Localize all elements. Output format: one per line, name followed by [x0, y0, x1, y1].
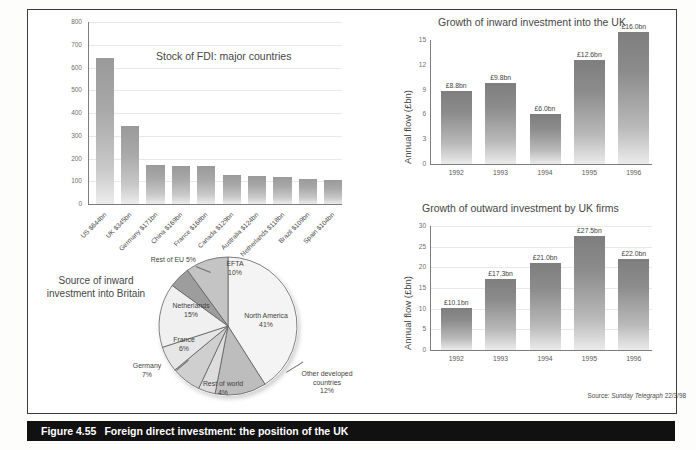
gridline [430, 226, 652, 227]
bar [121, 126, 139, 205]
bar [574, 60, 605, 164]
pie-slice-value: 41% [259, 321, 273, 328]
pie-slice-name: Other developedcountries [302, 370, 353, 386]
pie-slice-value: 15% [184, 311, 198, 318]
y-axis-tick: 200 [54, 155, 82, 162]
x-axis [430, 350, 652, 351]
pie-slice-name: Rest of EU [151, 256, 184, 263]
y-axis-tick: 9 [406, 86, 426, 93]
y-axis-label-inward: Annual flow (£bn) [402, 90, 413, 164]
pie-slice-label: Rest of world4% [188, 380, 258, 397]
bar [197, 166, 215, 204]
x-axis-category-label: 1996 [614, 169, 654, 176]
bar-value-label: £17.3bn [477, 270, 525, 277]
y-axis [430, 226, 431, 350]
y-axis-tick: 700 [54, 41, 82, 48]
y-axis-tick: 800 [54, 18, 82, 25]
plot-area-outward: 051015202530£10.1bn1992£17.3bn1993£21.0b… [430, 226, 652, 350]
bar-value-label: £8.8bn [432, 82, 480, 89]
pie-slice-label: Rest of EU 5% [132, 256, 196, 265]
pie-slice-value: 10% [228, 269, 242, 276]
y-axis-tick: 20 [406, 263, 426, 270]
bar [248, 176, 266, 204]
y-axis-tick: 15 [406, 36, 426, 43]
bar [324, 180, 342, 204]
x-axis-category-label: 1993 [481, 355, 521, 362]
bar-value-label: £16.0bn [610, 23, 658, 30]
figure-caption-text: Foreign direct investment: the position … [96, 425, 348, 437]
x-axis-category-label: 1992 [436, 169, 476, 176]
y-axis-tick: 100 [54, 177, 82, 184]
gridline [430, 247, 652, 248]
bar [618, 32, 649, 164]
y-axis-tick: 3 [406, 135, 426, 142]
pie-slice-value: 4% [218, 389, 228, 396]
bar [273, 177, 291, 204]
y-axis-tick: 30 [406, 222, 426, 229]
bar-value-label: £9.8bn [477, 74, 525, 81]
bar-value-label: £21.0bn [521, 254, 569, 261]
gridline [88, 113, 342, 114]
bar [485, 279, 516, 351]
chart-outward-investment: Growth of outward investment by UK firms… [390, 200, 672, 380]
pie-slice-value: 6% [179, 345, 189, 352]
pie-slice-name: EFTA [226, 260, 243, 267]
pie-slice-label: North America41% [235, 312, 297, 329]
bar-value-label: £10.1bn [432, 299, 480, 306]
chart-title-inward: Growth of inward investment into the UK [438, 16, 626, 28]
pie-slice-value: 12% [320, 387, 334, 394]
chart-inward-investment: Growth of inward investment into the UK … [390, 14, 672, 194]
bar [299, 179, 317, 204]
y-axis-tick: 15 [406, 284, 426, 291]
pie-slice-name: France [173, 336, 194, 343]
pie-slice-value: 5% [186, 256, 196, 263]
pie-slice-label: Germany7% [118, 362, 176, 379]
y-axis-tick: 5 [406, 325, 426, 332]
figure-page: Stock of FDI: major countries 0100200300… [0, 0, 696, 450]
bar [530, 114, 561, 164]
y-axis-tick: 25 [406, 243, 426, 250]
x-axis-category-label: 1995 [569, 355, 609, 362]
y-axis-tick: 500 [54, 86, 82, 93]
y-axis-tick: 600 [54, 64, 82, 71]
x-axis-category-label: 1993 [481, 169, 521, 176]
bar [530, 263, 561, 350]
pie-slice-label: Netherlands15% [161, 302, 221, 319]
figure-caption-bar: Figure 4.55 Foreign direct investment: t… [27, 421, 675, 441]
gridline [88, 22, 342, 23]
gridline [88, 90, 342, 91]
pie-title-text: Source of inward investment into Britain [47, 275, 145, 299]
source-note: Source: Sunday Telegraph 22/3/98 [587, 392, 686, 399]
source-date: 22/3/98 [663, 392, 686, 399]
y-axis [88, 22, 89, 204]
bar [618, 259, 649, 350]
bar [96, 58, 114, 205]
y-axis-tick: 10 [406, 305, 426, 312]
bar-value-label: £22.0bn [610, 250, 658, 257]
x-axis-category-label: 1992 [436, 355, 476, 362]
x-axis [88, 204, 342, 205]
source-publication: Sunday Telegraph [611, 392, 663, 399]
bar [574, 236, 605, 350]
chart-stock-of-fdi: Stock of FDI: major countries 0100200300… [38, 14, 358, 246]
x-axis-category-label: 1996 [614, 355, 654, 362]
y-axis-tick: 6 [406, 110, 426, 117]
bar [223, 175, 241, 204]
pie-slice-name: Netherlands [172, 302, 209, 309]
y-axis-tick: 0 [54, 200, 82, 207]
bar [441, 91, 472, 164]
y-axis-tick: 0 [406, 160, 426, 167]
bar [172, 166, 190, 204]
chart-title-pie: Source of inward investment into Britain [40, 274, 152, 300]
bar-value-label: £12.6bn [565, 51, 613, 58]
x-axis-category-label: 1994 [525, 169, 565, 176]
figure-number: Figure 4.55 [27, 425, 96, 437]
plot-area-inward: 03691215£8.8bn1992£9.8bn1993£6.0bn1994£1… [430, 40, 652, 164]
pie-slice-label: France6% [162, 336, 206, 353]
y-axis-tick: 0 [406, 346, 426, 353]
gridline [88, 45, 342, 46]
chart-title-outward: Growth of outward investment by UK firms [422, 202, 619, 214]
x-axis-category-label: 1994 [525, 355, 565, 362]
bar [146, 165, 164, 204]
pie-slice-value: 7% [142, 371, 152, 378]
